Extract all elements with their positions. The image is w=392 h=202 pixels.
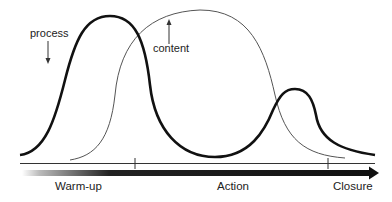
content-label: content: [153, 42, 189, 54]
phase-label-action: Action: [217, 180, 249, 192]
process-label: process: [30, 27, 69, 39]
timeline-arrow-icon: [22, 167, 379, 180]
content-curve: [70, 10, 345, 160]
process-arrow-icon: [46, 41, 51, 64]
phase-label-closure: Closure: [333, 180, 373, 192]
content-arrow-icon: [167, 19, 172, 44]
process-curve: [20, 16, 375, 157]
process-content-diagram: process content Warm-up Action Closure: [0, 0, 392, 202]
phase-label-warmup: Warm-up: [55, 180, 102, 192]
